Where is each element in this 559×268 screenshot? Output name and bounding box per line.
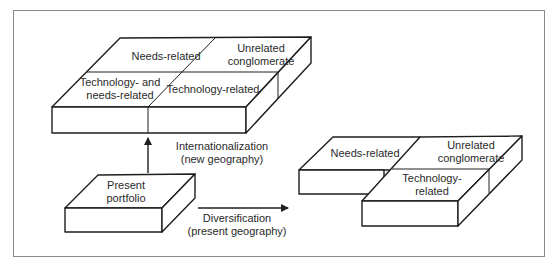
present-line1: Present — [106, 179, 145, 192]
top-unrelated-line2: conglomerate — [228, 55, 295, 68]
diversification-label: Diversification (present geography) — [187, 212, 286, 238]
right-tech-line2: related — [402, 185, 461, 198]
top-tech-needs-related-label: Technology- and needs-related — [80, 76, 161, 102]
right-unrelated-line1: Unrelated — [438, 139, 505, 152]
internationalization-line1: Internationalization — [176, 140, 268, 153]
right-unrelated-line2: conglomerate — [438, 152, 505, 165]
internationalization-label: Internationalization (new geography) — [176, 140, 268, 166]
top-needs-related-label: Needs-related — [131, 50, 200, 63]
top-unrelated-conglomerate-label: Unrelated conglomerate — [228, 42, 295, 68]
diversification-line2: (present geography) — [187, 225, 286, 238]
internationalization-line2: (new geography) — [176, 153, 268, 166]
right-technology-related-label: Technology- related — [402, 172, 461, 198]
top-unrelated-line1: Unrelated — [228, 42, 295, 55]
right-needs-related-label: Needs-related — [330, 147, 399, 160]
diversification-line1: Diversification — [187, 212, 286, 225]
present-portfolio-label: Present portfolio — [106, 179, 145, 205]
top-tech-needs-line2: needs-related — [80, 89, 161, 102]
right-tech-line1: Technology- — [402, 172, 461, 185]
top-tech-needs-line1: Technology- and — [80, 76, 161, 89]
right-unrelated-conglomerate-label: Unrelated conglomerate — [438, 139, 505, 165]
present-line2: portfolio — [106, 192, 145, 205]
top-technology-related-label: Technology-related — [167, 83, 260, 96]
